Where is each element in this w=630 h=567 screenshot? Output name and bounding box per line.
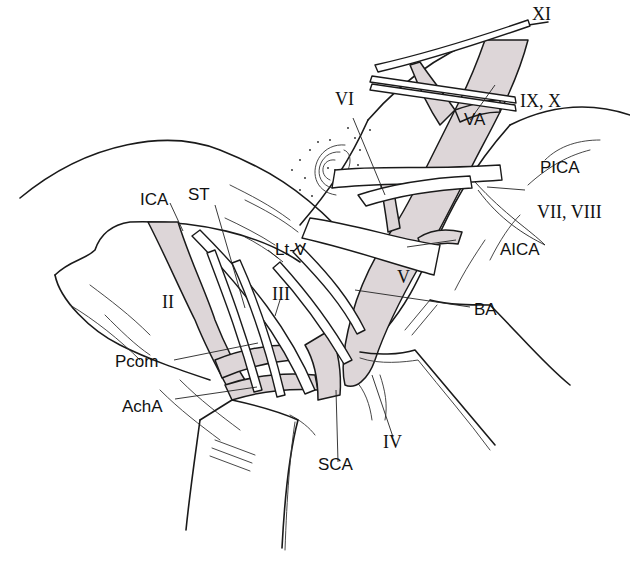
label-ii: II bbox=[162, 292, 174, 312]
label-st: ST bbox=[188, 185, 210, 204]
label-pica: PICA bbox=[540, 158, 580, 177]
label-vii-viii: VII, VIII bbox=[537, 202, 602, 222]
anatomy-diagram: XI IX, X VI VA PICA VII, VIII ICA ST Lt-… bbox=[0, 0, 630, 567]
label-v: V bbox=[397, 267, 410, 287]
label-ica: ICA bbox=[140, 190, 169, 209]
label-ix-x: IX, X bbox=[520, 91, 561, 111]
label-aica: AICA bbox=[500, 240, 540, 259]
label-lt-v: Lt-V bbox=[275, 240, 307, 259]
label-ba: BA bbox=[474, 300, 497, 319]
label-vi: VI bbox=[335, 89, 354, 109]
label-pcom: Pcom bbox=[115, 352, 158, 371]
label-va: VA bbox=[464, 110, 486, 129]
label-iv: IV bbox=[383, 432, 402, 452]
label-xi: XI bbox=[532, 4, 551, 24]
label-sca: SCA bbox=[318, 455, 354, 474]
label-iii: III bbox=[272, 284, 290, 304]
label-acha: AchA bbox=[122, 397, 163, 416]
